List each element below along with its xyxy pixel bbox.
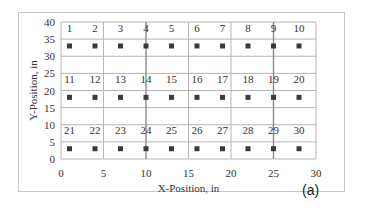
data-marker	[271, 95, 276, 100]
data-marker	[169, 95, 174, 100]
data-marker	[297, 95, 302, 100]
y-tick-label: 40	[44, 16, 56, 28]
data-marker	[220, 95, 225, 100]
data-marker	[118, 146, 123, 151]
point-label: 14	[141, 73, 153, 85]
data-marker	[144, 95, 149, 100]
x-tick-label: 30	[311, 167, 323, 179]
data-marker	[246, 43, 251, 48]
data-marker	[297, 146, 302, 151]
data-marker	[93, 43, 98, 48]
point-label: 21	[64, 124, 75, 136]
data-marker	[195, 43, 200, 48]
point-label: 15	[166, 73, 178, 85]
data-marker	[67, 146, 72, 151]
data-marker	[144, 43, 149, 48]
point-label: 17	[217, 73, 229, 85]
point-label: 12	[90, 73, 101, 85]
data-marker	[93, 95, 98, 100]
data-marker	[195, 146, 200, 151]
data-marker	[169, 146, 174, 151]
data-marker	[220, 146, 225, 151]
data-marker	[93, 146, 98, 151]
point-label: 13	[115, 73, 127, 85]
point-label: 25	[166, 124, 178, 136]
point-label: 11	[64, 73, 75, 85]
point-label: 3	[118, 22, 124, 34]
point-label: 7	[220, 22, 226, 34]
point-label: 18	[243, 73, 255, 85]
data-marker	[297, 43, 302, 48]
data-marker	[271, 146, 276, 151]
data-marker	[67, 95, 72, 100]
point-label: 30	[294, 124, 306, 136]
point-label: 1	[67, 22, 73, 34]
y-tick-label: 15	[44, 102, 56, 114]
x-tick-label: 15	[183, 167, 195, 179]
panel-label: (a)	[302, 182, 319, 198]
point-label: 10	[294, 22, 306, 34]
y-axis-title: Y-Position, in	[27, 60, 39, 121]
x-tick-label: 20	[226, 167, 238, 179]
data-marker	[271, 43, 276, 48]
point-label: 23	[115, 124, 127, 136]
y-tick-label: 0	[50, 153, 56, 165]
data-marker	[118, 43, 123, 48]
point-label: 4	[143, 22, 149, 34]
point-label: 24	[141, 124, 153, 136]
y-tick-label: 10	[44, 119, 56, 131]
data-marker	[220, 43, 225, 48]
y-tick-label: 30	[44, 50, 56, 62]
data-marker	[195, 95, 200, 100]
point-label: 27	[217, 124, 229, 136]
y-tick-label: 20	[44, 85, 56, 97]
point-label: 29	[268, 124, 280, 136]
data-marker	[169, 43, 174, 48]
y-tick-label: 35	[44, 33, 56, 45]
y-tick-label: 5	[50, 136, 56, 148]
point-label: 22	[90, 124, 101, 136]
data-marker	[144, 146, 149, 151]
point-label: 28	[243, 124, 255, 136]
point-label: 16	[192, 73, 204, 85]
x-tick-label: 5	[101, 167, 107, 179]
x-tick-label: 25	[268, 167, 280, 179]
point-label: 9	[271, 22, 277, 34]
x-tick-label: 10	[141, 167, 153, 179]
y-tick-label: 25	[44, 67, 56, 79]
point-label: 5	[169, 22, 175, 34]
x-axis-title: X-Position, in	[158, 182, 220, 194]
point-label: 26	[192, 124, 204, 136]
point-label: 20	[294, 73, 306, 85]
point-label: 6	[194, 22, 200, 34]
point-label: 19	[268, 73, 280, 85]
point-label: 2	[92, 22, 98, 34]
x-tick-label: 0	[58, 167, 64, 179]
data-marker	[246, 95, 251, 100]
data-marker	[246, 146, 251, 151]
point-label: 8	[245, 22, 251, 34]
data-marker	[67, 43, 72, 48]
data-marker	[118, 95, 123, 100]
